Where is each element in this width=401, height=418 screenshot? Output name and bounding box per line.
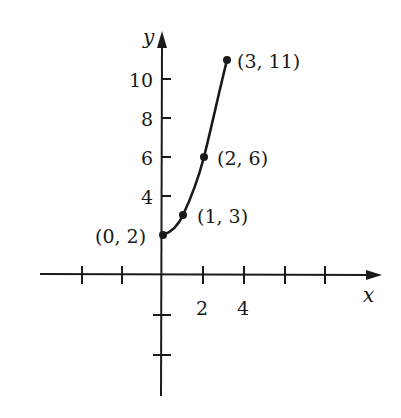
point-label-2-6: (2, 6) (217, 147, 268, 169)
graph: 2 4 4 6 8 10 x y (0, 2) (1, 3) (2, 6) (3… (0, 0, 401, 418)
y-tick-label-4: 4 (141, 186, 153, 208)
x-axis-arrow-icon (366, 270, 382, 280)
y-axis-label: y (142, 25, 155, 49)
y-axis (161, 44, 162, 396)
y-tick-label-6: 6 (141, 147, 153, 169)
y-tick-label-10: 10 (129, 69, 153, 91)
point-2-6 (200, 153, 208, 161)
x-axis (40, 274, 372, 275)
x-axis-label: x (363, 283, 374, 307)
x-tick-label-2: 2 (196, 297, 208, 319)
point-1-3 (179, 211, 187, 219)
y-axis-arrow-icon (157, 31, 167, 48)
point-3-11 (223, 56, 231, 64)
point-0-2 (159, 231, 167, 239)
point-label-1-3: (1, 3) (197, 205, 248, 227)
point-label-3-11: (3, 11) (237, 50, 300, 72)
y-tick-label-8: 8 (141, 108, 153, 130)
point-label-0-2: (0, 2) (95, 225, 146, 247)
x-tick-label-4: 4 (237, 297, 249, 319)
